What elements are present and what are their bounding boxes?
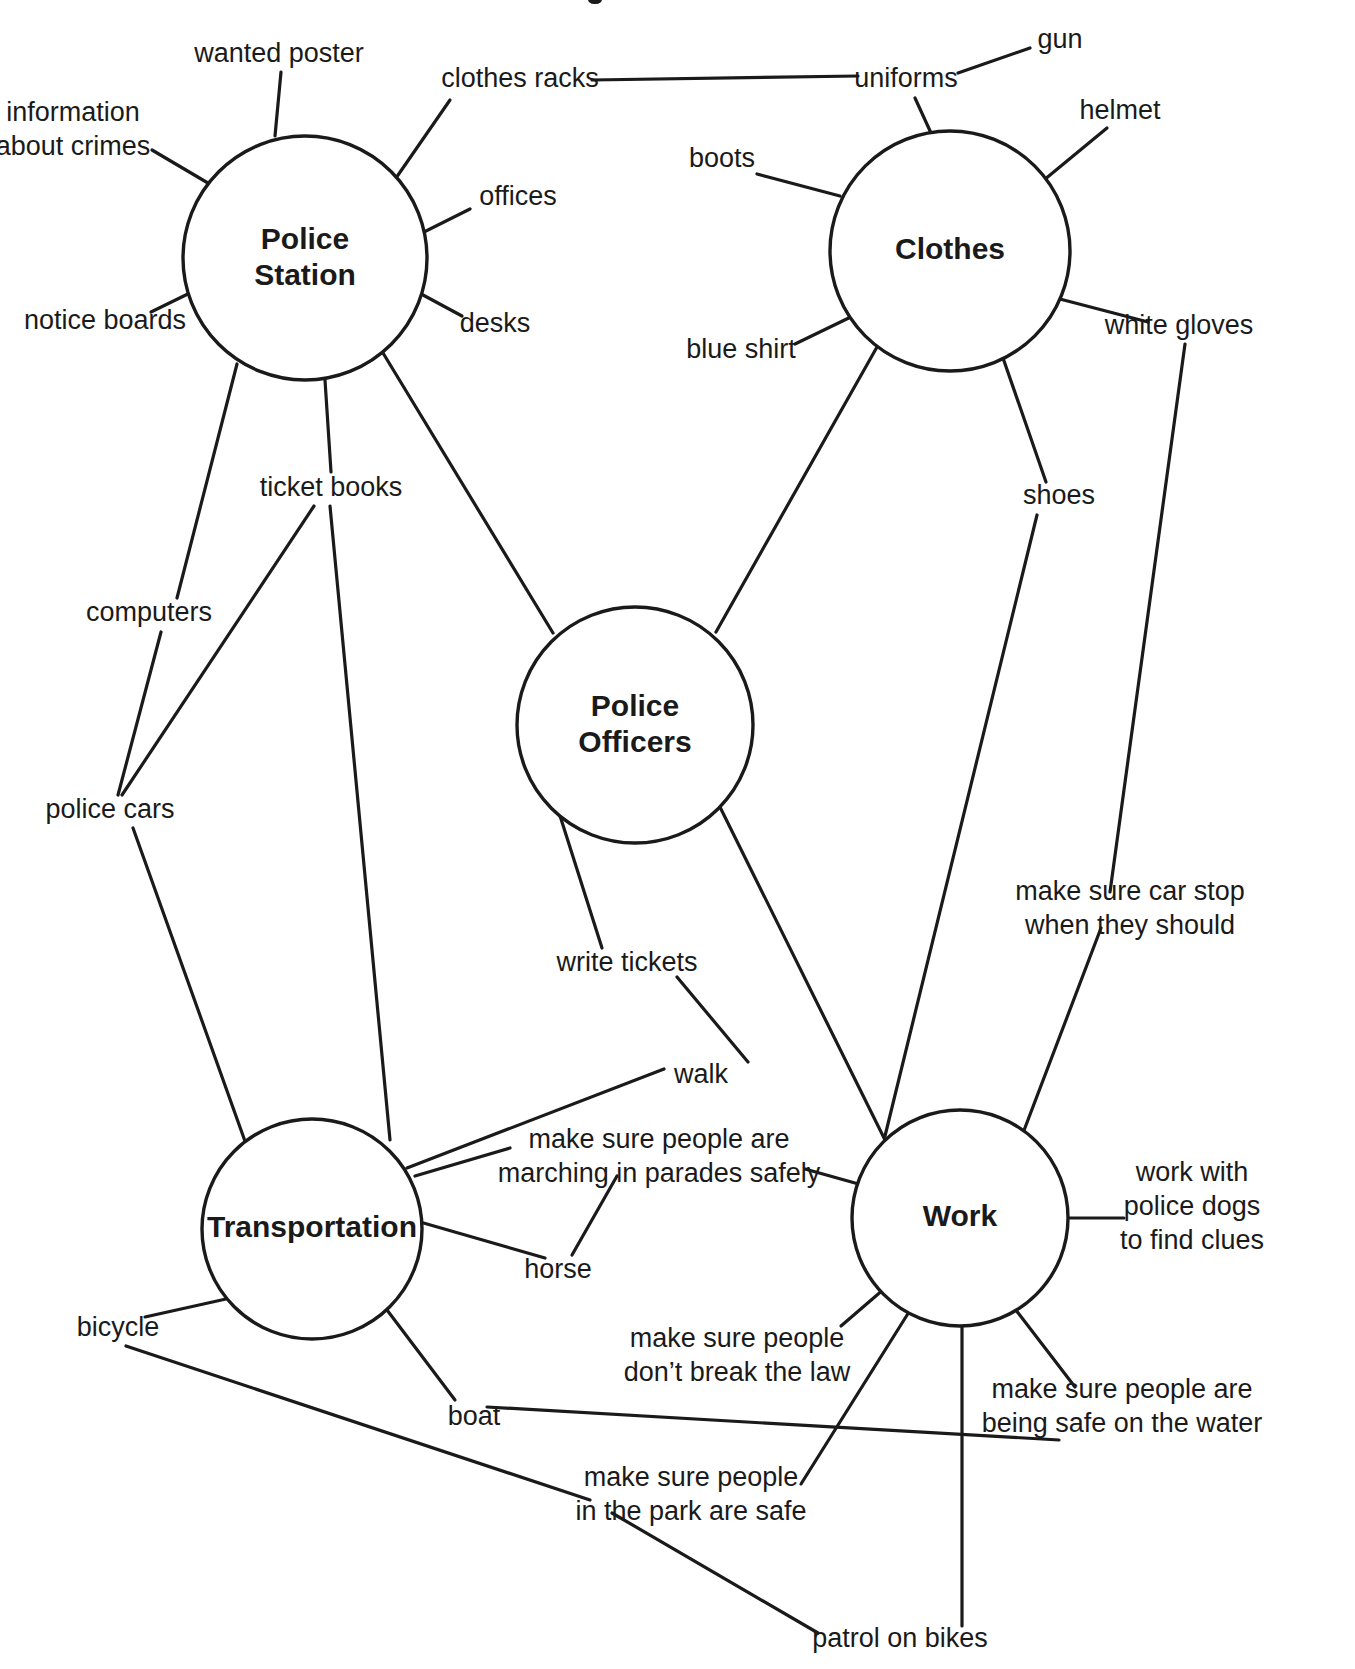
leaf-work_with_police_dogs[interactable]: work withpolice dogsto find clues: [1120, 1157, 1264, 1255]
leaf-police_cars[interactable]: police cars: [45, 794, 174, 824]
leaf-helmet[interactable]: helmet: [1079, 95, 1161, 125]
leaf-notice_boards[interactable]: notice boards: [24, 305, 186, 335]
edge-clothes-to-boots: [757, 174, 840, 196]
node-label-clothes: Clothes: [895, 232, 1005, 265]
leaf-label-make_sure_safe_water: make sure people are: [991, 1374, 1252, 1404]
leaf-label-walk: walk: [673, 1059, 729, 1089]
node-police_station[interactable]: PoliceStation: [183, 136, 427, 380]
edge-uniforms-to-clothes: [915, 98, 931, 133]
leaf-label-desks: desks: [460, 308, 531, 338]
edge-police_station-to-offices: [420, 209, 470, 234]
node-work[interactable]: Work: [852, 1110, 1068, 1326]
leaf-wanted_poster[interactable]: wanted poster: [193, 38, 364, 68]
leaf-white_gloves[interactable]: white gloves: [1104, 310, 1254, 340]
leaf-label-white_gloves: white gloves: [1104, 310, 1254, 340]
leaf-label-shoes: shoes: [1023, 480, 1095, 510]
leaf-label-notice_boards: notice boards: [24, 305, 186, 335]
leaf-label-wanted_poster: wanted poster: [193, 38, 364, 68]
node-label-police_station: Police: [261, 222, 349, 255]
leaf-label-police_cars: police cars: [45, 794, 174, 824]
edge-bicycle-to-make_sure_park_safe: [126, 1346, 590, 1500]
edge-clothes_racks-to-uniforms: [592, 76, 858, 80]
leaf-shoes[interactable]: shoes: [1023, 480, 1095, 510]
leaf-label-blue_shirt: blue shirt: [686, 334, 796, 364]
edge-make_sure_car_stop-to-work: [1023, 928, 1101, 1133]
leaf-computers[interactable]: computers: [86, 597, 212, 627]
edge-ticket_books-to-transportation: [330, 506, 390, 1140]
leaf-label-information_about_crimes-line2: about crimes: [0, 131, 150, 161]
leaf-blue_shirt[interactable]: blue shirt: [686, 334, 796, 364]
edge-police_station-to-wanted_poster: [275, 72, 281, 136]
node-label-police_station-line2: Station: [254, 258, 356, 291]
node-label-police_officers-line2: Officers: [578, 725, 691, 758]
leaf-label-make_sure_parades-line2: marching in parades safely: [498, 1158, 821, 1188]
leaf-label-uniforms: uniforms: [854, 63, 958, 93]
edge-transportation-to-horse: [420, 1222, 545, 1258]
leaf-bicycle[interactable]: bicycle: [77, 1312, 160, 1342]
node-label-police_officers: Police: [591, 689, 679, 722]
leaf-label-make_sure_safe_water-line2: being safe on the water: [982, 1408, 1263, 1438]
leaf-label-work_with_police_dogs: work with: [1135, 1157, 1249, 1187]
leaf-boat[interactable]: boat: [448, 1401, 501, 1431]
edge-clothes-to-shoes: [1003, 358, 1046, 482]
concept-map-svg: PoliceStationClothesPoliceOfficersTransp…: [0, 0, 1355, 1669]
edge-boat-to-make_sure_safe_water: [487, 1407, 1059, 1440]
edge-clothes-to-police_officers: [716, 347, 877, 632]
leaf-label-make_sure_car_stop: make sure car stop: [1015, 876, 1245, 906]
leaf-make_sure_safe_water[interactable]: make sure people arebeing safe on the wa…: [982, 1374, 1263, 1438]
leaf-make_sure_park_safe[interactable]: make sure peoplein the park are safe: [575, 1462, 806, 1526]
leaf-label-work_with_police_dogs-line2: police dogs: [1124, 1191, 1261, 1221]
node-label-work: Work: [923, 1199, 998, 1232]
leaf-label-helmet: helmet: [1079, 95, 1161, 125]
edge-police_station-to-ticket_books: [325, 380, 331, 472]
leaf-label-information_about_crimes: information: [6, 97, 140, 127]
node-police_officers[interactable]: PoliceOfficers: [517, 607, 753, 843]
edge-make_sure_park_safe-to-patrol_on_bikes: [612, 1513, 818, 1633]
node-label-transportation: Transportation: [207, 1210, 417, 1243]
leaf-clothes_racks[interactable]: clothes racks: [441, 63, 599, 93]
leaf-label-patrol_on_bikes: patrol on bikes: [812, 1623, 988, 1653]
leaf-label-boots: boots: [689, 143, 755, 173]
leaf-gun[interactable]: gun: [1037, 24, 1082, 54]
node-clothes[interactable]: Clothes: [830, 131, 1070, 371]
concept-map-canvas: PoliceStationClothesPoliceOfficersTransp…: [0, 0, 1355, 1669]
leaf-boots[interactable]: boots: [689, 143, 755, 173]
edge-clothes-to-helmet: [1044, 128, 1107, 180]
edge-transportation-to-make_sure_parades: [415, 1148, 510, 1176]
leaf-label-make_sure_car_stop-line2: when they should: [1024, 910, 1235, 940]
edge-write_tickets-to-walk: [677, 977, 748, 1062]
edge-transportation-to-boat: [384, 1306, 455, 1400]
leaf-label-bicycle: bicycle: [77, 1312, 160, 1342]
leaf-label-computers: computers: [86, 597, 212, 627]
leaf-walk[interactable]: walk: [673, 1059, 729, 1089]
edge-ticket_books-to-police_cars: [122, 506, 314, 795]
leaf-information_about_crimes[interactable]: informationabout crimes: [0, 97, 150, 161]
leaf-horse[interactable]: horse: [524, 1254, 592, 1284]
leaf-label-make_sure_parades: make sure people are: [528, 1124, 789, 1154]
leaf-label-make_sure_break_law-line2: don’t break the law: [624, 1357, 851, 1387]
leaf-write_tickets[interactable]: write tickets: [555, 947, 697, 977]
leaf-make_sure_car_stop[interactable]: make sure car stopwhen they should: [1015, 876, 1245, 940]
node-transportation[interactable]: Transportation: [202, 1119, 422, 1339]
leaf-desks[interactable]: desks: [460, 308, 531, 338]
leaf-label-horse: horse: [524, 1254, 592, 1284]
leaf-label-make_sure_park_safe: make sure people: [584, 1462, 799, 1492]
leaf-label-clothes_racks: clothes racks: [441, 63, 599, 93]
leaf-make_sure_parades[interactable]: make sure people aremarching in parades …: [498, 1124, 821, 1188]
leaf-uniforms[interactable]: uniforms: [854, 63, 958, 93]
edge-police_officers-to-work: [718, 803, 889, 1148]
edge-police_station-to-computers: [177, 364, 237, 598]
edge-police_cars-to-transportation: [133, 828, 246, 1144]
leaf-patrol_on_bikes[interactable]: patrol on bikes: [812, 1623, 988, 1653]
leaf-label-ticket_books: ticket books: [260, 472, 403, 502]
leaf-ticket_books[interactable]: ticket books: [260, 472, 403, 502]
edge-police_station-to-police_officers: [380, 348, 553, 633]
leaf-label-gun: gun: [1037, 24, 1082, 54]
edge-police_station-to-information_about_crimes: [152, 150, 213, 186]
edge-work-to-make_sure_break_law: [841, 1289, 884, 1326]
edge-white_gloves-to-make_sure_car_stop: [1110, 344, 1185, 892]
edge-clothes-to-blue_shirt: [795, 314, 857, 344]
leaf-offices[interactable]: offices: [479, 181, 557, 211]
edge-shoes-to-work: [885, 515, 1037, 1136]
leaf-make_sure_break_law[interactable]: make sure peopledon’t break the law: [624, 1323, 851, 1387]
